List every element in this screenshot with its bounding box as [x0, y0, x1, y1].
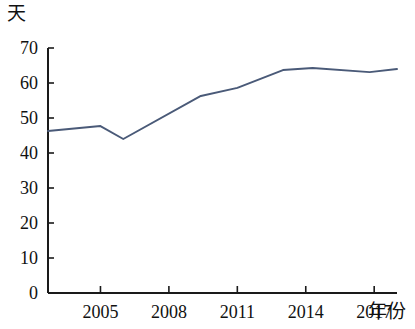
data-series-line	[48, 68, 397, 139]
y-axis-tick-label: 40	[2, 144, 38, 162]
x-axis-tick-label: 2014	[279, 303, 333, 321]
y-axis-tick-label: 60	[2, 74, 38, 92]
line-chart: 天 年份 010203040506070 2005200820112014201…	[0, 0, 415, 329]
y-axis-tick-label: 30	[2, 179, 38, 197]
y-axis-tick-label: 20	[2, 214, 38, 232]
y-axis-tick-label: 10	[2, 249, 38, 267]
x-axis-ticks	[100, 286, 374, 293]
x-axis-tick-label: 2011	[210, 303, 264, 321]
x-axis-tick-label: 2005	[73, 303, 127, 321]
y-axis-tick-label: 70	[2, 39, 38, 57]
y-axis-tick-label: 0	[2, 284, 38, 302]
y-axis-tick-label: 50	[2, 109, 38, 127]
axis-lines	[48, 48, 397, 293]
plot-area	[0, 0, 415, 329]
x-axis-tick-label: 2017	[347, 303, 401, 321]
x-axis-tick-label: 2008	[142, 303, 196, 321]
